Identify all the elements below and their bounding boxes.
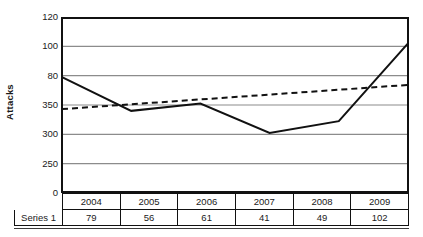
table-cell: 102: [351, 210, 409, 226]
table-value-row: Series 1 7956614149102: [15, 210, 409, 226]
data-table: 200420052006200720082009 Series 1 795661…: [14, 193, 409, 226]
table-cell: 41: [235, 210, 293, 226]
table-header-row: 200420052006200720082009: [15, 194, 409, 210]
plot-svg: [61, 17, 409, 193]
y-tick-label: 300: [18, 129, 58, 139]
y-axis-tick-labels: 120100803503002500: [16, 0, 58, 200]
plot-area: [61, 17, 409, 193]
y-tick-label: 100: [18, 41, 58, 51]
y-tick-label: 250: [18, 159, 58, 169]
table-cell: 79: [63, 210, 121, 226]
table-column-header: 2006: [178, 194, 236, 210]
table-cell: 49: [293, 210, 351, 226]
y-tick-label: 120: [18, 12, 58, 22]
table-column-header: 2008: [293, 194, 351, 210]
table-cell: 61: [178, 210, 236, 226]
table-column-header: 2005: [120, 194, 178, 210]
table-column-header: 2009: [351, 194, 409, 210]
bottom-horizontal-rule: [14, 228, 409, 229]
table-series-label: Series 1: [15, 210, 63, 226]
table-column-header: 2007: [235, 194, 293, 210]
table-cell: 56: [120, 210, 178, 226]
y-tick-label: 350: [18, 100, 58, 110]
chart-figure: Attacks 120100803503002500 2004200520062…: [0, 0, 423, 237]
table-corner-cell: [15, 194, 63, 210]
table-column-header: 2004: [63, 194, 121, 210]
y-tick-label: 80: [18, 71, 58, 81]
